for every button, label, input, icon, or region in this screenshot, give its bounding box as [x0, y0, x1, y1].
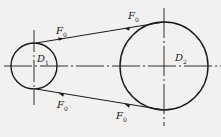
- force-label-top-left: F0: [56, 26, 67, 38]
- force-label-top-right: F0: [128, 11, 139, 23]
- force-subscript: 0: [123, 116, 127, 123]
- diameter-symbol: D: [37, 53, 45, 64]
- belt-bottom-span: [36, 89, 164, 110]
- force-symbol: F: [57, 99, 64, 110]
- force-symbol: F: [56, 25, 63, 36]
- diagram-canvas: [0, 0, 221, 137]
- force-symbol: F: [116, 110, 123, 121]
- force-symbol: F: [128, 10, 135, 21]
- pulley-label-d1: D1: [37, 54, 49, 66]
- force-label-bottom-left: F0: [57, 100, 68, 112]
- force-subscript: 0: [135, 16, 139, 23]
- diameter-symbol: D: [175, 52, 183, 63]
- pulley-label-d2: D2: [175, 53, 187, 65]
- diameter-subscript: 2: [183, 58, 187, 65]
- belt-drive-diagram: F0 F0 F0 F0 D1 D2: [0, 0, 221, 137]
- force-label-bottom-right: F0: [116, 111, 127, 123]
- force-subscript: 0: [64, 105, 68, 112]
- diameter-subscript: 1: [45, 59, 49, 66]
- force-subscript: 0: [63, 31, 67, 38]
